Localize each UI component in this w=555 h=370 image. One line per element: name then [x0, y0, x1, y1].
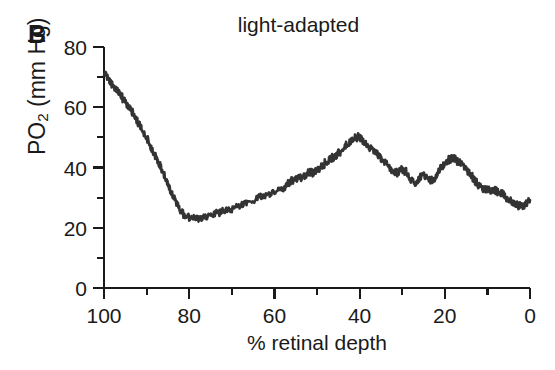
x-tick-label: 80: [178, 305, 201, 326]
figure-panel-b: B light-adapted PO2 (mm Hg) % retinal de…: [0, 0, 555, 370]
y-tick-label: 80: [30, 37, 87, 58]
series-layer: [104, 72, 530, 222]
x-tick-label: 0: [524, 305, 536, 326]
y-tick-label: 40: [30, 157, 87, 178]
y-tick-label: 60: [30, 97, 87, 118]
x-tick-label: 60: [263, 305, 286, 326]
data-series-line: [104, 72, 530, 222]
y-tick-label: 0: [30, 278, 87, 299]
x-tick-label: 100: [86, 305, 121, 326]
x-tick-label: 40: [348, 305, 371, 326]
y-tick-label: 20: [30, 217, 87, 238]
x-tick-label: 20: [433, 305, 456, 326]
